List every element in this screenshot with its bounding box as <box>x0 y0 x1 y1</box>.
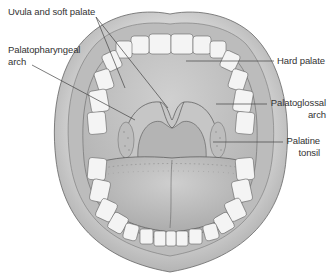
label-palatoglossal-arch: Palatoglossal arch <box>270 97 326 121</box>
mouth-anatomy-diagram: Uvula and soft palate Palatopharyngeal a… <box>0 0 331 277</box>
label-palatopharyngeal-arch: Palatopharyngeal arch <box>8 44 80 68</box>
label-palatopharyngeal-line2: arch <box>8 56 80 68</box>
label-palatine-line1: Palatine <box>280 135 320 147</box>
label-uvula-soft-palate: Uvula and soft palate <box>8 6 95 18</box>
label-palatine-line2: tonsil <box>280 147 320 159</box>
label-palatine-tonsil: Palatine tonsil <box>280 135 320 159</box>
label-palatopharyngeal-line1: Palatopharyngeal <box>8 44 80 56</box>
label-hard-palate: Hard palate <box>277 55 325 67</box>
label-palatoglossal-line2: arch <box>270 109 326 121</box>
label-palatoglossal-line1: Palatoglossal <box>270 97 326 109</box>
